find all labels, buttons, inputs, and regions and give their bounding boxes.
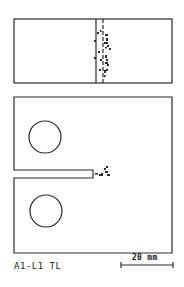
edge-view (14, 19, 172, 83)
upper-loading-hole (29, 121, 61, 153)
scale-bar-label: 20 mm (132, 254, 158, 262)
front-view (14, 97, 172, 253)
crack-tip-markers (93, 166, 110, 178)
specimen-label: A1-L1 TL (14, 262, 61, 271)
edge-view-outline (14, 19, 172, 83)
lower-loading-hole (30, 195, 62, 227)
specimen-diagram (0, 0, 184, 287)
scale-bar (121, 262, 173, 268)
